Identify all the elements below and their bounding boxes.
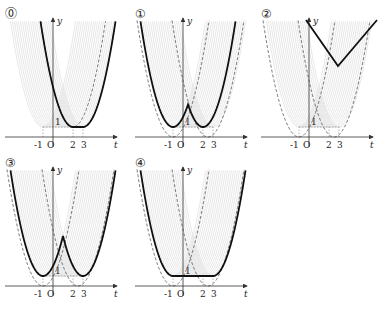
origin-label: O bbox=[47, 140, 54, 150]
tick-two: 2 bbox=[326, 140, 332, 150]
y-axis-label: y bbox=[186, 16, 193, 26]
tick-three: 3 bbox=[81, 140, 87, 150]
figure-canvas: ⓪yt1-1O23①yt1-1O23②yt1-1O23③yt1-1O23④yt1… bbox=[0, 0, 383, 312]
tick-minus-one: -1 bbox=[34, 289, 43, 299]
panel-4: ④yt1-1O23 bbox=[135, 156, 248, 299]
level-one-label: 1 bbox=[55, 266, 61, 276]
panel-label: ④ bbox=[135, 156, 146, 170]
level-one-label: 1 bbox=[311, 117, 317, 127]
level-one-label: 1 bbox=[55, 117, 61, 127]
t-axis-label: t bbox=[114, 140, 118, 150]
panel-1: ①yt1-1O23 bbox=[135, 7, 248, 150]
panel-label: ① bbox=[135, 7, 146, 21]
origin-label: O bbox=[47, 289, 54, 299]
tick-two: 2 bbox=[200, 140, 206, 150]
panel-3: ③yt1-1O23 bbox=[5, 156, 118, 299]
t-axis-label: t bbox=[370, 140, 374, 150]
tick-minus-one: -1 bbox=[164, 289, 173, 299]
tick-two: 2 bbox=[70, 140, 76, 150]
y-axis-label: y bbox=[186, 165, 193, 175]
y-axis-label: y bbox=[56, 165, 63, 175]
origin-label: O bbox=[177, 140, 184, 150]
tick-minus-one: -1 bbox=[34, 140, 43, 150]
tick-three: 3 bbox=[211, 289, 217, 299]
panel-label: ⓪ bbox=[5, 7, 17, 21]
level-one-label: 1 bbox=[185, 117, 191, 127]
panel-label: ② bbox=[261, 7, 272, 21]
tick-minus-one: -1 bbox=[290, 140, 299, 150]
tick-three: 3 bbox=[337, 140, 343, 150]
origin-label: O bbox=[303, 140, 310, 150]
tick-two: 2 bbox=[70, 289, 76, 299]
y-axis-label: y bbox=[312, 16, 319, 26]
tick-three: 3 bbox=[81, 289, 87, 299]
panel-2: ②yt1-1O23 bbox=[261, 7, 377, 150]
guide-lines bbox=[173, 127, 213, 137]
y-axis-label: y bbox=[56, 16, 63, 26]
tick-minus-one: -1 bbox=[164, 140, 173, 150]
guide-lines bbox=[299, 127, 339, 137]
level-one-label: 1 bbox=[185, 266, 191, 276]
t-axis-label: t bbox=[244, 140, 248, 150]
tick-three: 3 bbox=[211, 140, 217, 150]
t-axis-label: t bbox=[114, 289, 118, 299]
guide-lines bbox=[43, 276, 83, 286]
tick-two: 2 bbox=[200, 289, 206, 299]
guide-lines bbox=[43, 127, 83, 137]
t-axis-label: t bbox=[244, 289, 248, 299]
panel-label: ③ bbox=[5, 156, 16, 170]
hatch-region bbox=[11, 21, 116, 127]
origin-label: O bbox=[177, 289, 184, 299]
guide-lines bbox=[173, 276, 213, 286]
panel-0: ⓪yt1-1O23 bbox=[5, 7, 118, 150]
